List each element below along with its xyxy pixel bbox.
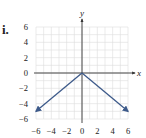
x-tick-label: 0 <box>80 126 84 136</box>
x-tick-label: −4 <box>47 126 57 136</box>
y-tick-label: −6 <box>19 114 28 124</box>
y-tick-label: 6 <box>24 22 28 32</box>
y-tick-label: 4 <box>24 37 29 47</box>
x-tick-label: 6 <box>126 126 130 136</box>
graph: xy−6−4−202466420−2−4−6 <box>0 0 146 138</box>
x-tick-label: 2 <box>95 126 99 136</box>
y-axis-label: y <box>79 8 84 18</box>
y-tick-label: 0 <box>24 68 28 78</box>
y-tick-label: −4 <box>19 99 29 109</box>
x-tick-label: −2 <box>62 126 71 136</box>
x-tick-label: −6 <box>31 126 40 136</box>
y-tick-label: 2 <box>24 53 28 63</box>
y-tick-label: −2 <box>19 83 28 93</box>
x-tick-label: 4 <box>111 126 116 136</box>
x-axis-label: x <box>136 68 141 78</box>
